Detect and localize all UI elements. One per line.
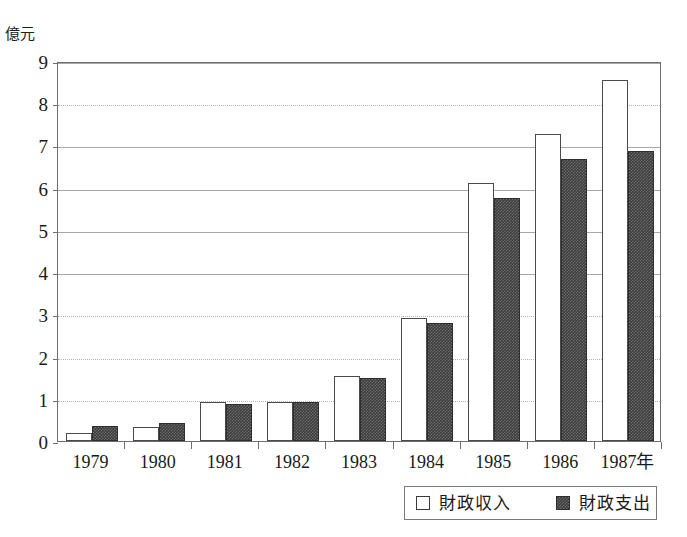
bar-1980-expense[interactable] [159, 423, 185, 441]
x-tick-1982 [325, 442, 326, 449]
x-tick-1980 [191, 442, 192, 449]
x-tick-label-1987: 1987年 [594, 450, 661, 474]
legend-item-expense[interactable]: 財政支出 [556, 495, 651, 512]
chart-legend: 財政収入 財政支出 [404, 486, 657, 520]
bar-1982-expense[interactable] [293, 402, 319, 441]
bar-group-1985 [461, 63, 528, 441]
bar-1985-income[interactable] [468, 183, 494, 441]
y-tick-label-0: 0 [22, 433, 48, 452]
legend-label-income: 財政収入 [439, 495, 511, 512]
x-tick-label-1980: 1980 [124, 450, 191, 474]
bar-1981-income[interactable] [200, 402, 226, 441]
y-tick-label-3: 3 [22, 306, 48, 325]
x-tick-1986 [594, 442, 595, 449]
y-tick-label-7: 7 [22, 137, 48, 156]
y-tick-label-9: 9 [22, 53, 48, 72]
x-axis-tick-labels: 197919801981198219831984198519861987年 [57, 450, 661, 476]
bar-1979-expense[interactable] [92, 426, 118, 441]
x-tick-label-1981: 1981 [191, 450, 258, 474]
bar-group-1984 [394, 63, 461, 441]
bar-group-1982 [259, 63, 326, 441]
bar-1986-expense[interactable] [561, 159, 587, 441]
bar-1986-income[interactable] [535, 134, 561, 441]
bar-1987-expense[interactable] [628, 151, 654, 441]
x-tick-1983 [393, 442, 394, 449]
legend-swatch-income-icon [416, 496, 430, 510]
x-tick-1987 [661, 442, 662, 449]
y-tick-label-1: 1 [22, 391, 48, 410]
legend-label-expense: 財政支出 [579, 495, 651, 512]
bar-1983-income[interactable] [334, 376, 360, 441]
bar-group-1979 [58, 63, 125, 441]
bar-group-1987 [595, 63, 662, 441]
bar-1979-income[interactable] [66, 433, 92, 441]
y-tick-label-8: 8 [22, 95, 48, 114]
bar-group-1986 [528, 63, 595, 441]
bar-1980-income[interactable] [133, 427, 159, 441]
legend-swatch-expense-icon [556, 496, 570, 510]
legend-item-income[interactable]: 財政収入 [416, 495, 511, 512]
plot-area [57, 62, 661, 442]
x-tick-label-1979: 1979 [57, 450, 124, 474]
bar-1981-expense[interactable] [226, 404, 252, 441]
y-axis-unit-label: 億元 [5, 27, 35, 42]
y-tick-label-4: 4 [22, 264, 48, 283]
y-tick-label-2: 2 [22, 349, 48, 368]
x-axis-ticks [57, 442, 661, 449]
y-tick-label-6: 6 [22, 180, 48, 199]
x-tick-label-1984: 1984 [393, 450, 460, 474]
x-tick-label-1983: 1983 [325, 450, 392, 474]
bar-group-1983 [326, 63, 393, 441]
x-tick-1979 [124, 442, 125, 449]
chart-title [0, 0, 687, 3]
bar-1985-expense[interactable] [494, 198, 520, 441]
x-tick-1981 [258, 442, 259, 449]
x-tick-1985 [527, 442, 528, 449]
bar-1984-expense[interactable] [427, 323, 453, 441]
x-tick-label-1986: 1986 [527, 450, 594, 474]
bar-group-1980 [125, 63, 192, 441]
y-tick-label-5: 5 [22, 222, 48, 241]
y-axis-tick-labels: 0123456789 [14, 62, 48, 442]
bar-group-1981 [192, 63, 259, 441]
bar-1983-expense[interactable] [360, 378, 386, 441]
bar-1982-income[interactable] [267, 402, 293, 441]
x-tick-label-1985: 1985 [460, 450, 527, 474]
bar-1987-income[interactable] [602, 80, 628, 441]
bar-1984-income[interactable] [401, 318, 427, 441]
x-tick-label-1982: 1982 [258, 450, 325, 474]
x-tick-1984 [460, 442, 461, 449]
